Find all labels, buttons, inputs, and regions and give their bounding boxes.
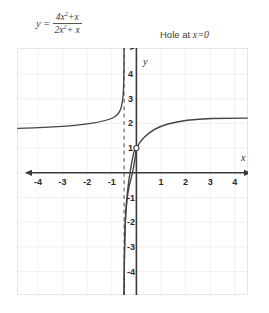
numerator-term-a: 4x xyxy=(56,12,65,22)
y-tick-label--4: -4 xyxy=(127,267,135,277)
y-tick-label-4: 4 xyxy=(128,69,133,79)
hole-open-circle-marker xyxy=(134,146,139,151)
equation-equals-sign: = xyxy=(44,18,50,29)
x-tick-label--1: -1 xyxy=(108,177,116,187)
equation-fraction: 4x2+x 2x2+ x xyxy=(53,12,82,35)
plot-area: -4 -3 -2 -1 1 2 3 4 4 3 2 1 -1 -2 -3 -4 … xyxy=(17,48,248,295)
plot-svg xyxy=(17,48,248,295)
y-axis-name-label: y xyxy=(143,56,147,67)
hole-annotation: Hole at x=0 xyxy=(160,29,209,40)
numerator-term-b: +x xyxy=(68,12,79,22)
denominator-term-a: 2x xyxy=(55,25,64,35)
x-tick-label-3: 3 xyxy=(208,177,213,187)
y-tick-label--2: -2 xyxy=(127,217,135,227)
equation-denominator: 2x2+ x xyxy=(53,23,82,35)
x-tick-label-2: 2 xyxy=(183,177,188,187)
y-tick-label-1: 1 xyxy=(128,143,133,153)
x-axis-name-label: x xyxy=(241,152,245,163)
x-tick-label--2: -2 xyxy=(83,177,91,187)
y-tick-label-3: 3 xyxy=(128,94,133,104)
y-tick-label--3: -3 xyxy=(127,242,135,252)
x-tick-label--3: -3 xyxy=(59,177,67,187)
y-tick-label--1: -1 xyxy=(127,193,135,203)
rational-function-graph-figure: y = 4x2+x 2x2+ x Hole at x=0 xyxy=(0,0,269,313)
x-tick-label-1: 1 xyxy=(158,177,163,187)
equation-lhs: y xyxy=(36,18,41,29)
x-tick-label-4: 4 xyxy=(232,177,237,187)
hole-annotation-text: Hole at xyxy=(160,29,190,40)
hole-annotation-value: x=0 xyxy=(193,29,209,40)
y-tick-label-2: 2 xyxy=(128,118,133,128)
function-equation-label: y = 4x2+x 2x2+ x xyxy=(36,12,82,35)
equation-numerator: 4x2+x xyxy=(54,12,81,23)
x-tick-label--4: -4 xyxy=(34,177,42,187)
denominator-term-b: + x xyxy=(67,25,80,35)
